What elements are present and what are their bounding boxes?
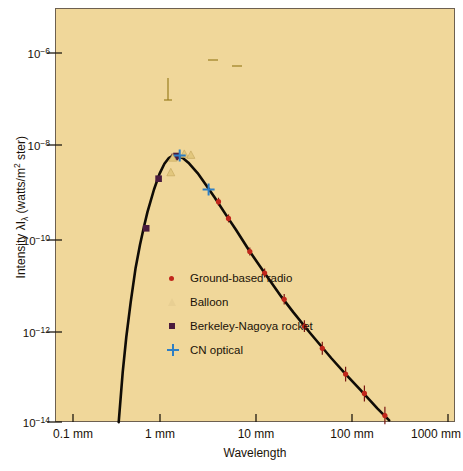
x-tick-0.1mm: 0.1 mm xyxy=(53,427,93,441)
figure-container: 10−6 10−8 10−10 10−12 10−14 0.1 mm 1 mm … xyxy=(0,0,463,471)
legend-item-cn-optical: CN optical xyxy=(166,338,356,362)
legend-marker-triangle-icon xyxy=(166,296,184,308)
x-tick-10mm: 10 mm xyxy=(238,427,275,441)
legend-marker-square-icon xyxy=(166,320,184,332)
legend-marker-plus-icon xyxy=(166,344,184,356)
legend-label-ground-based-radio: Ground-based radio xyxy=(190,272,292,284)
chart-legend: Ground-based radio Balloon Berkeley-Nago… xyxy=(166,266,356,362)
x-tick-1000mm: 1000 mm xyxy=(411,427,461,441)
x-axis-title: Wavelength xyxy=(55,446,455,460)
x-tick-1mm: 1 mm xyxy=(145,427,175,441)
legend-label-balloon: Balloon xyxy=(190,296,228,308)
y-tick-1e-8: 10−8 xyxy=(28,138,51,153)
y-tick-1e-6: 10−6 xyxy=(28,46,51,61)
x-tick-100mm: 100 mm xyxy=(330,427,373,441)
legend-label-berkeley-nagoya-rocket: Berkeley-Nagoya rocket xyxy=(190,320,313,332)
legend-item-berkeley-nagoya-rocket: Berkeley-Nagoya rocket xyxy=(166,314,356,338)
y-tick-1e-14: 10−14 xyxy=(23,415,50,430)
y-axis-title: Intensity λIλ (watts/m2 ster) xyxy=(12,102,30,312)
legend-label-cn-optical: CN optical xyxy=(190,344,243,356)
legend-item-ground-based-radio: Ground-based radio xyxy=(166,266,356,290)
legend-item-balloon: Balloon xyxy=(166,290,356,314)
y-tick-1e-12: 10−12 xyxy=(23,325,50,340)
legend-marker-dot-icon xyxy=(166,272,184,284)
